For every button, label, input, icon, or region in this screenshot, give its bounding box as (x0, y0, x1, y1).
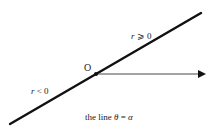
origin-point (94, 72, 98, 76)
caption-alpha: α (128, 112, 133, 122)
origin-label: O (84, 62, 91, 73)
diagram-caption: the line θ = α (85, 112, 133, 122)
theta-alpha-line (10, 13, 201, 124)
arrowhead-icon (198, 70, 206, 78)
positive-ray-label: r ⩾ 0 (131, 31, 152, 41)
negative-ray-relation: < 0 (35, 86, 50, 96)
diagram-svg: O r ⩾ 0 r < 0 the line θ = α (0, 0, 213, 138)
polar-line-diagram: O r ⩾ 0 r < 0 the line θ = α (0, 0, 213, 138)
caption-equals: = (118, 112, 128, 122)
negative-ray-label: r < 0 (31, 86, 49, 96)
caption-prefix: the line (85, 112, 114, 122)
positive-ray-relation: ⩾ 0 (135, 31, 153, 41)
